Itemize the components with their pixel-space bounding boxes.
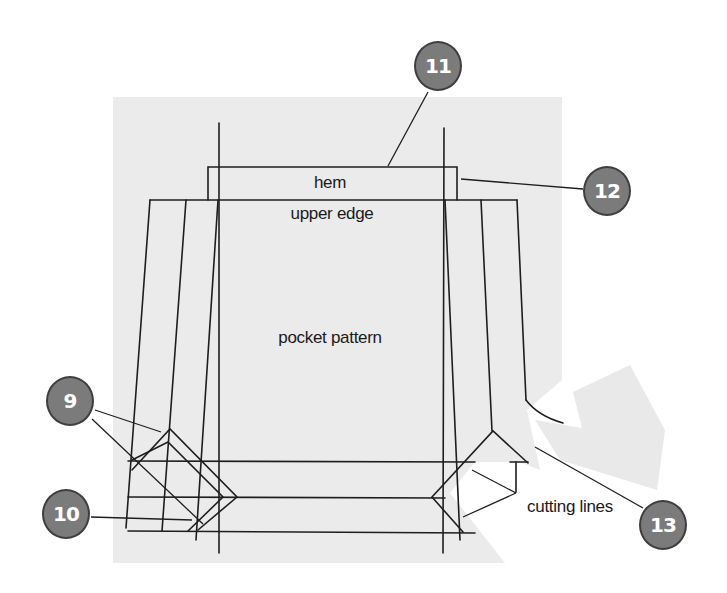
upper-edge-label: upper edge — [290, 204, 373, 224]
right-fold-vertical — [443, 128, 444, 553]
cutting-lines-label: cutting lines — [527, 497, 613, 517]
hem-label: hem — [314, 173, 346, 193]
callout-badge-11: 11 — [414, 41, 462, 91]
callout-badge-10: 10 — [42, 489, 90, 539]
callout-badge-9: 9 — [46, 376, 94, 426]
diagram-drawing — [0, 0, 727, 593]
leader-cutting-a — [472, 470, 516, 493]
callout-badge-13: 13 — [639, 500, 687, 550]
leader-cutting-b — [463, 493, 516, 517]
pocket-pattern-label: pocket pattern — [278, 328, 382, 348]
callout-badge-12: 12 — [583, 166, 631, 216]
pocket-pattern-diagram: hem upper edge pocket pattern cutting li… — [0, 0, 727, 593]
horizontal-line-1 — [128, 461, 475, 462]
